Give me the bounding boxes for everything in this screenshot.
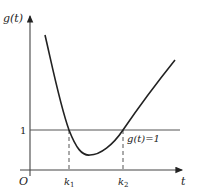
x-tick-k1: k1: [64, 176, 75, 189]
y-axis-label: g(t): [3, 12, 23, 25]
x-axis-label: t: [181, 175, 186, 188]
line-label: g(t)=1: [127, 133, 160, 144]
x-tick-k2: k2: [118, 176, 129, 189]
y-tick-label-1: 1: [20, 125, 26, 136]
origin-label: O: [19, 175, 28, 188]
graph-diagram: g(t) t O 1 k1 k2 g(t)=1: [0, 0, 197, 196]
